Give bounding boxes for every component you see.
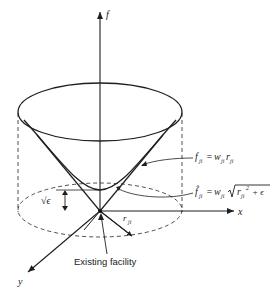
svg-text:ji: ji	[229, 158, 234, 164]
svg-text:ji: ji	[240, 193, 245, 199]
facility-arrow	[101, 215, 107, 254]
svg-text:ji: ji	[198, 193, 203, 199]
y-axis-label: y	[17, 276, 23, 287]
cone-leader-line	[142, 158, 193, 165]
svg-text:=: =	[206, 186, 213, 197]
cone-left-extension	[84, 211, 100, 230]
facility-point	[98, 209, 102, 213]
offset-label: √ϵ	[41, 195, 51, 206]
cone-hyperboloid-diagram: f x y r ji √ϵ f ji = w ji r ji f̂ ji	[0, 0, 280, 302]
cone-equation: f ji = w ji r ji	[195, 151, 234, 164]
radius-label: r ji	[123, 213, 132, 225]
svg-text:2: 2	[246, 185, 249, 191]
svg-text:ji: ji	[220, 158, 225, 164]
svg-text:w: w	[214, 186, 221, 197]
facility-label: Existing facility	[74, 256, 137, 267]
svg-text:w: w	[214, 151, 221, 162]
x-axis-label: x	[237, 206, 243, 217]
svg-text:ji: ji	[198, 158, 203, 164]
svg-text:r: r	[123, 213, 127, 223]
hyperboloid-equation: f̂ ji = w ji r ji 2 + ϵ	[195, 185, 270, 199]
svg-text:=: =	[206, 151, 213, 162]
svg-text:+ ϵ: + ϵ	[252, 187, 264, 197]
f-axis-label: f	[106, 9, 110, 20]
svg-text:ji: ji	[127, 219, 132, 225]
svg-text:ji: ji	[220, 193, 225, 199]
